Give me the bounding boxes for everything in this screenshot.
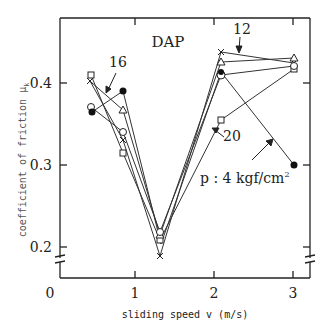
annotation-pressure: p : 4 kgf/cm2: [200, 170, 290, 186]
x-tick-1: 1: [131, 285, 140, 301]
annotation-16: 16: [109, 54, 127, 70]
y-tick-0.2: 0.2: [30, 239, 52, 255]
plot-frame: [55, 18, 315, 278]
annotation-arrows: [106, 37, 273, 160]
friction-chart: 0.4 0.3 0.2 0 1 2 3 sliding speed v (m/s…: [0, 0, 330, 333]
y-tick-0.4: 0.4: [30, 75, 52, 91]
x-tick-2: 2: [210, 285, 219, 301]
annotation-20: 20: [223, 128, 241, 144]
y-tick-0.3: 0.3: [30, 157, 52, 173]
annotation-12: 12: [233, 21, 251, 37]
chart-title: DAP: [152, 33, 185, 51]
x-axis-label: sliding speed v (m/s): [122, 309, 248, 320]
x-tick-3: 3: [289, 285, 298, 301]
x-tick-0: 0: [46, 285, 55, 301]
